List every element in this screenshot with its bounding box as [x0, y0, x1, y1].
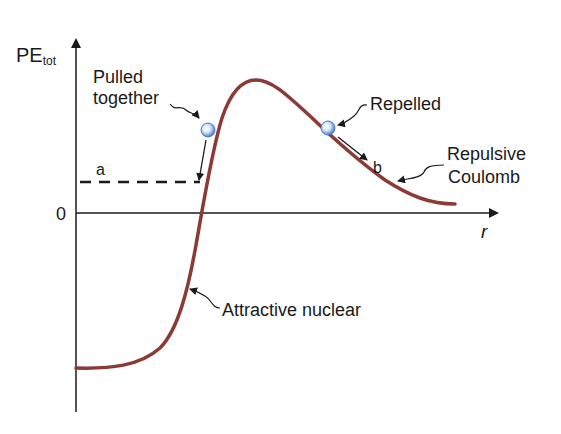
point-b-label: b — [373, 159, 382, 176]
repelled-label: Repelled — [370, 94, 441, 114]
y-axis-label: PEtot — [16, 44, 57, 68]
attractive-nuclear-label: Attractive nuclear — [222, 300, 361, 320]
repelled-pointer — [338, 105, 367, 125]
arrow-to-a — [199, 140, 206, 180]
x-axis-label: r — [481, 221, 488, 242]
particle-ball-right — [321, 121, 335, 135]
particle-ball-left — [201, 123, 215, 137]
point-a-label: a — [96, 161, 105, 178]
potential-curve — [76, 80, 455, 368]
pulled-together-label: Pulled together — [93, 67, 159, 108]
zero-label: 0 — [56, 204, 66, 224]
potential-energy-diagram: PEtot 0 r a b Pulled together Repelled R… — [0, 0, 561, 434]
pulled-together-pointer — [170, 104, 199, 118]
repulsive-coulomb-label: Repulsive Coulomb — [447, 144, 531, 187]
attractive-nuclear-pointer — [190, 289, 220, 308]
repulsive-coulomb-pointer — [398, 165, 444, 181]
